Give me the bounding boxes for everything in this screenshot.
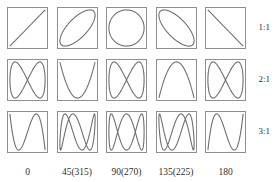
- col-label-135: 135(225): [151, 168, 202, 178]
- lissajous-cell-3-1-90: [106, 111, 147, 153]
- curve-path: [158, 62, 193, 98]
- col-label-180: 180: [200, 168, 251, 178]
- lissajous-curve: [206, 60, 245, 100]
- lissajous-cell-2-1-180: [205, 59, 246, 101]
- row-label-3-1: 3:1: [259, 127, 271, 136]
- col-label-90: 90(270): [101, 168, 152, 178]
- lissajous-curve: [157, 8, 196, 48]
- curve-path: [109, 10, 144, 46]
- lissajous-cell-1-1-0: [7, 7, 48, 49]
- lissajous-cell-1-1-180: [205, 7, 246, 49]
- lissajous-cell-2-1-90: [106, 59, 147, 101]
- curve-path: [109, 62, 144, 98]
- lissajous-cell-1-1-45: [57, 7, 98, 49]
- lissajous-curve: [206, 8, 245, 48]
- lissajous-cell-2-1-45: [57, 59, 98, 101]
- lissajous-cell-1-1-90: [106, 7, 147, 49]
- lissajous-cell-3-1-0: [7, 111, 48, 153]
- lissajous-curve: [8, 8, 47, 48]
- lissajous-cell-3-1-45: [57, 111, 98, 153]
- lissajous-curve: [107, 8, 146, 48]
- curve-path: [109, 114, 144, 150]
- lissajous-curve: [58, 112, 97, 152]
- curve-path: [158, 10, 193, 46]
- row-label-1-1: 1:1: [259, 23, 271, 32]
- lissajous-cell-1-1-135: [156, 7, 197, 49]
- lissajous-curve: [8, 112, 47, 152]
- curve-path: [208, 10, 243, 46]
- lissajous-figure: 1:12:13:1045(315)90(270)135(225)180: [0, 0, 275, 182]
- lissajous-curve: [107, 112, 146, 152]
- lissajous-cell-3-1-135: [156, 111, 197, 153]
- lissajous-cell-2-1-0: [7, 59, 48, 101]
- col-label-45: 45(315): [52, 168, 103, 178]
- lissajous-curve: [107, 60, 146, 100]
- curve-path: [10, 62, 45, 98]
- lissajous-cell-3-1-180: [205, 111, 246, 153]
- lissajous-curve: [8, 60, 47, 100]
- lissajous-curve: [206, 112, 245, 152]
- col-label-0: 0: [2, 168, 53, 178]
- lissajous-curve: [58, 60, 97, 100]
- curve-path: [59, 10, 94, 46]
- row-label-2-1: 2:1: [259, 75, 271, 84]
- curve-path: [59, 62, 94, 98]
- curve-path: [208, 114, 243, 150]
- lissajous-curve: [157, 60, 196, 100]
- lissajous-cell-2-1-135: [156, 59, 197, 101]
- curve-path: [59, 114, 94, 150]
- lissajous-curve: [157, 112, 196, 152]
- curve-path: [10, 114, 45, 150]
- curve-path: [208, 62, 243, 98]
- curve-path: [10, 10, 45, 46]
- curve-path: [158, 114, 193, 150]
- lissajous-curve: [58, 8, 97, 48]
